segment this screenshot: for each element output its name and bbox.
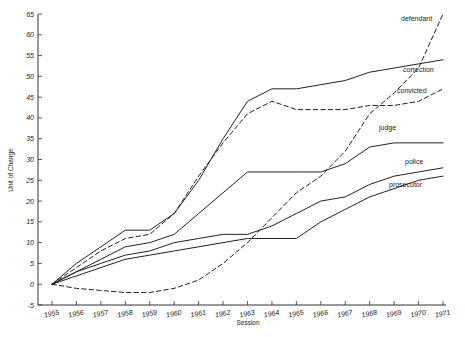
y-axis-tick-label: 65 — [26, 11, 34, 18]
x-axis-tick-label: 1957 — [92, 308, 110, 318]
y-axis-tick-label: 25 — [25, 177, 34, 184]
x-axis-tick-label: 1955 — [43, 308, 60, 318]
line-chart: -505101520253035404550556065 19551956195… — [0, 0, 465, 337]
series-line-prosecutor — [52, 176, 443, 284]
series-line-judge — [52, 143, 443, 284]
y-axis-tick-label: 55 — [26, 52, 34, 59]
y-axis-tick-label: 10 — [26, 239, 34, 246]
y-axis-tick-label: 5 — [30, 260, 34, 267]
series-line-convicted — [52, 89, 443, 284]
series-label-convicted: convicted — [397, 87, 427, 94]
x-axis-tick-label: 1971 — [434, 308, 451, 318]
x-axis: 1955195619571958195919601961196219631964… — [38, 301, 451, 319]
x-axis-tick-label: 1959 — [141, 308, 158, 318]
x-axis-tick-label: 1956 — [68, 308, 85, 318]
y-axis-tick-label: 40 — [26, 114, 34, 121]
chart-svg: -505101520253035404550556065 19551956195… — [0, 0, 465, 337]
y-axis-tick-label: 30 — [26, 156, 34, 163]
y-axis-tick-label: 60 — [26, 31, 34, 38]
x-axis-tick-label: 1968 — [361, 308, 378, 318]
y-axis-tick-label: 0 — [30, 281, 34, 288]
x-axis-tick-label: 1962 — [214, 308, 231, 318]
y-axis-title: Unit of Change — [7, 148, 15, 192]
series-line-police — [52, 168, 443, 284]
x-axis-tick-label: 1965 — [288, 308, 305, 318]
series-label-judge: judge — [378, 124, 396, 132]
series-label-correction: correction — [403, 66, 434, 73]
y-axis-tick-label: 20 — [25, 198, 34, 205]
y-axis-tick-label: 45 — [26, 94, 34, 101]
y-axis: -505101520253035404550556065 — [25, 11, 42, 309]
x-axis-tick-label: 1963 — [239, 308, 256, 318]
y-axis-tick-label: -5 — [28, 302, 34, 309]
y-axis-tick-label: 50 — [26, 73, 34, 80]
series-lines — [52, 14, 443, 293]
x-axis-tick-label: 1967 — [336, 308, 354, 318]
x-axis-tick-label: 1964 — [263, 308, 280, 318]
x-axis-title: Session — [236, 319, 260, 326]
series-labels: defendantcorrectionconvictedjudgepolicep… — [378, 15, 434, 189]
y-axis-tick-label: 35 — [26, 135, 34, 142]
x-axis-tick-label: 1970 — [410, 308, 427, 318]
series-label-prosecutor: prosecutor — [389, 181, 423, 189]
y-axis-tick-label: 15 — [26, 218, 34, 225]
x-axis-tick-label: 1958 — [116, 308, 133, 318]
x-axis-tick-label: 1960 — [165, 308, 182, 318]
series-line-defendant — [52, 14, 443, 293]
series-label-police: police — [405, 158, 423, 166]
x-axis-tick-label: 1969 — [385, 308, 402, 318]
x-axis-tick-label: 1966 — [312, 308, 329, 318]
series-label-defendant: defendant — [401, 15, 432, 22]
x-axis-tick-label: 1961 — [190, 308, 207, 318]
